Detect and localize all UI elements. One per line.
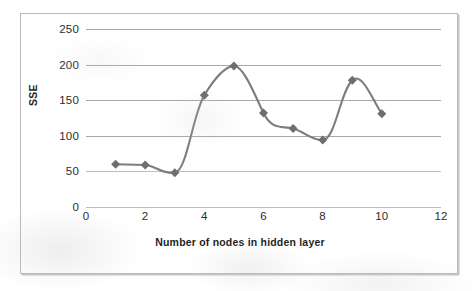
x-axis-title: Number of nodes in hidden layer bbox=[21, 236, 459, 248]
series-line-path bbox=[116, 66, 382, 173]
data-point-5 bbox=[229, 62, 238, 71]
data-point-8 bbox=[318, 136, 327, 145]
series-markers bbox=[111, 62, 386, 178]
y-tick-label-250: 250 bbox=[59, 23, 79, 35]
data-point-7 bbox=[289, 124, 298, 133]
data-point-2 bbox=[141, 161, 150, 170]
x-tick-label-4: 4 bbox=[201, 210, 208, 222]
data-point-1 bbox=[111, 160, 120, 169]
x-tick-label-10: 10 bbox=[375, 210, 388, 222]
y-tick-label-0: 0 bbox=[72, 201, 79, 213]
gridline-0 bbox=[86, 207, 441, 208]
series-sse bbox=[86, 29, 441, 207]
y-tick-label-200: 200 bbox=[59, 59, 79, 71]
y-tick-label-100: 100 bbox=[59, 130, 79, 142]
x-tick-label-8: 8 bbox=[319, 210, 326, 222]
y-tick-label-150: 150 bbox=[59, 94, 79, 106]
data-point-6 bbox=[259, 109, 268, 118]
x-axis-tick-labels: 0 2 4 6 8 10 12 bbox=[86, 210, 441, 230]
x-tick-label-12: 12 bbox=[434, 210, 447, 222]
x-tick-label-2: 2 bbox=[142, 210, 149, 222]
y-axis-tick-labels: 250 200 150 100 50 0 bbox=[21, 29, 79, 207]
x-tick-label-6: 6 bbox=[260, 210, 267, 222]
x-tick-label-0: 0 bbox=[83, 210, 90, 222]
y-tick-label-50: 50 bbox=[66, 165, 79, 177]
chart-container: SSE 250 200 150 100 50 0 bbox=[20, 13, 458, 274]
chart-plot-wrapper: SSE 250 200 150 100 50 0 bbox=[21, 14, 459, 275]
